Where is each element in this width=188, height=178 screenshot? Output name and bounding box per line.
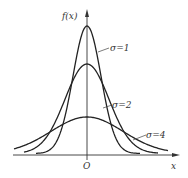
leader-sigma-4 (133, 135, 146, 140)
leader-sigma-1 (98, 48, 109, 52)
x-axis-label: x (171, 161, 176, 171)
x-axis-arrow-icon (172, 153, 180, 157)
y-axis-arrow-icon (85, 9, 89, 17)
curve-sigma-4 (14, 117, 168, 151)
label-sigma-1: σ=1 (110, 43, 129, 53)
y-axis-label: f(x) (61, 11, 78, 21)
label-sigma-4: σ=4 (146, 130, 166, 140)
normal-distribution-chart: f(x) σ=1 σ=2 σ=4 O x (0, 0, 188, 178)
origin-label: O (83, 161, 91, 171)
label-sigma-2: σ=2 (112, 100, 132, 110)
